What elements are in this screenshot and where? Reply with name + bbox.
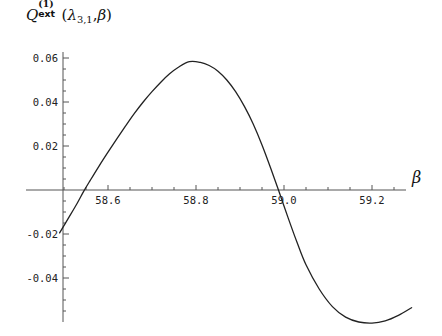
y-tick-label: 0.02 — [16, 140, 58, 152]
x-tick-label: 59.2 — [359, 194, 384, 206]
y-tick-label: -0.02 — [16, 228, 58, 240]
y-tick-label: 0.04 — [16, 96, 58, 108]
x-tick-label: 58.8 — [183, 194, 208, 206]
x-tick-label: 59.0 — [271, 194, 296, 206]
chart-figure: Q(1)ext(λ3,1,β) β 58.658.859.059.2 0.060… — [0, 0, 442, 336]
data-series-curve — [60, 61, 412, 323]
axis-lines — [26, 52, 406, 322]
plot-canvas — [0, 0, 442, 336]
y-tick-label: 0.06 — [16, 52, 58, 64]
x-tick-label: 58.6 — [95, 194, 120, 206]
y-tick-label: -0.04 — [16, 272, 58, 284]
